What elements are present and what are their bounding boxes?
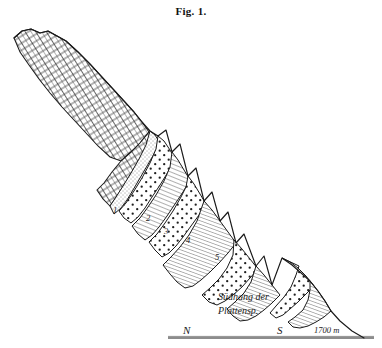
unit-label-3: 3 [163, 226, 168, 236]
figure-root: Fig. 1. [0, 0, 382, 348]
unit-label-1: 1 [113, 205, 117, 215]
compass-labels: N S [182, 324, 283, 336]
scale-bar [168, 336, 374, 338]
scale-label: 1700 m [314, 325, 339, 335]
compass-north-label: N [182, 324, 191, 336]
compass-south-label: S [277, 324, 283, 336]
cross-section-drawing: 1 2 3 4 5 Südhang der Plattensp. N S 170… [0, 0, 382, 348]
caption-line-2: Plattensp. [217, 305, 258, 316]
unit-label-5: 5 [215, 252, 219, 262]
caption-line-1: Südhang der [218, 291, 269, 302]
stratigraphic-beds [14, 29, 331, 328]
bed-crosshatch-limestone [14, 29, 149, 161]
